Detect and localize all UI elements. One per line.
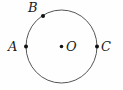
- point-label-b: B: [28, 1, 38, 14]
- point-dot-a: [24, 45, 28, 49]
- point-label-o: O: [66, 40, 77, 53]
- point-label-c: C: [101, 40, 111, 53]
- point-dot-c: [95, 45, 99, 49]
- point-label-a: A: [8, 40, 17, 53]
- point-dot-b: [41, 14, 45, 18]
- point-dot-o-center: [60, 45, 64, 49]
- circle-diagram-figure: B A O C: [0, 0, 123, 90]
